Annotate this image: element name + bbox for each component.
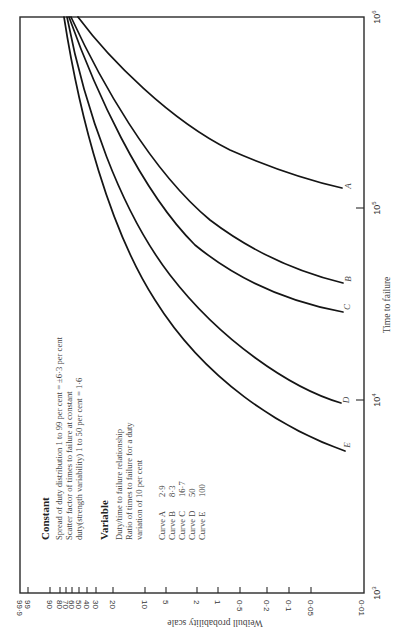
constant-annotation: Constant Spread of duty distribution 1 t… (39, 337, 84, 540)
curve-label-d: D (341, 396, 351, 404)
constant-line-1: Spread of duty distribution 1 to 99 per … (54, 337, 64, 540)
variable-heading: Variable (98, 500, 110, 540)
probability-tick-label: 99 (23, 600, 32, 609)
curve-a (78, 17, 342, 188)
constant-line-2: Scatter factor of times to failure at co… (64, 391, 74, 540)
probability-tick-label: 0·05 (306, 600, 315, 617)
time-tick-label: 106 (371, 10, 382, 24)
variable-line-3: variation of 10 per cent (134, 459, 144, 540)
probability-tick-label: 2 (192, 600, 201, 605)
probability-tick-label: 0·5 (235, 600, 244, 612)
curve-e (64, 17, 345, 451)
probability-tick-label: 5 (161, 600, 170, 605)
curve-legend-name: Curve B (167, 511, 177, 540)
probability-axis-title: Weibull probability scale (167, 618, 262, 628)
variable-annotation: Variable Duty/time to failure relationsh… (98, 422, 144, 540)
curve-legend-value: 16·7 (177, 481, 187, 497)
curve-label-c: C (342, 303, 352, 310)
probability-tick-label: 10 (140, 600, 149, 609)
weibull-chart: 99·9999080706050403020105210·50·20·10·05… (0, 0, 407, 638)
curve-legend-name: Curve D (187, 511, 197, 540)
curve-legend: Curve A2·9Curve B8·3Curve C16·7Curve D50… (157, 481, 207, 540)
curve-group: ABCDE (64, 17, 353, 451)
probability-tick-label: 0·01 (357, 600, 366, 617)
probability-tick-label: 0·1 (284, 600, 293, 612)
curve-label-e: E (342, 442, 352, 449)
curve-label-a: A (343, 183, 353, 190)
curve-legend-value: 100 (197, 484, 207, 497)
curve-legend-name: Curve A (157, 510, 167, 540)
curve-d (67, 17, 341, 403)
constant-line-3: duty(strength variability) 1 to 50 per c… (74, 377, 84, 540)
curve-legend-value: 50 (187, 488, 197, 497)
probability-tick-label: 40 (82, 600, 91, 609)
variable-line-1: Duty/time to failure relationship (114, 429, 124, 540)
time-tick-label: 105 (371, 201, 382, 215)
curve-legend-name: Curve E (197, 512, 207, 540)
curve-legend-value: 2·9 (157, 486, 167, 497)
probability-tick-label: 50 (74, 600, 83, 609)
probability-tick-label: 1 (213, 600, 222, 605)
probability-axis: 99·9999080706050403020105210·50·20·10·05… (15, 587, 366, 617)
variable-line-2: Ratio of times to failure for a duty (124, 422, 134, 540)
probability-tick-label: 99·9 (15, 600, 24, 617)
curve-label-b: B (343, 276, 353, 282)
time-tick-label: 104 (371, 393, 382, 407)
probability-tick-label: 90 (45, 600, 54, 609)
curve-legend-name: Curve C (177, 511, 187, 540)
probability-tick-label: 20 (108, 600, 117, 609)
curve-legend-value: 8·3 (167, 486, 177, 497)
probability-tick-label: 30 (91, 600, 100, 609)
time-axis: 103104105106 (356, 10, 382, 600)
constant-heading: Constant (39, 497, 51, 540)
time-tick-label: 103 (371, 586, 382, 600)
time-axis-title: Time to failure (382, 277, 392, 334)
probability-tick-label: 0·2 (262, 600, 271, 612)
